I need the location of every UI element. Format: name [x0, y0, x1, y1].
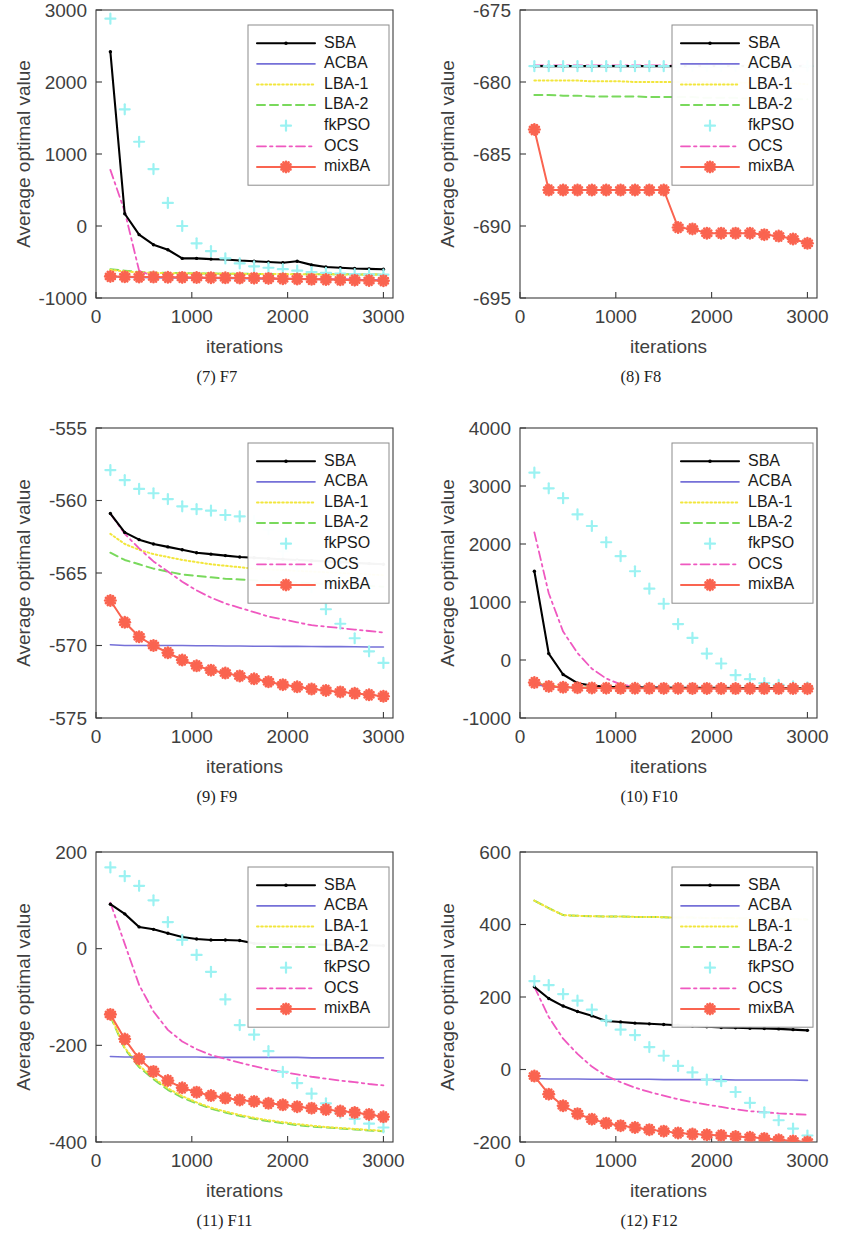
y-tick-label: 0 [500, 650, 511, 671]
y-tick-label: 3000 [469, 476, 511, 497]
legend-label: OCS [324, 555, 359, 572]
y-axis-title: Average optimal value [437, 479, 458, 667]
panel-caption: (9) F9 [197, 787, 238, 806]
x-tick-label: 2000 [690, 1150, 732, 1171]
x-tick-label: 2000 [690, 306, 732, 327]
legend-label: mixBA [324, 575, 371, 592]
x-tick-label: 2000 [266, 306, 308, 327]
legend-label: fkPSO [748, 116, 794, 133]
legend-label: fkPSO [324, 116, 370, 133]
panel-caption: (11) F11 [197, 1211, 253, 1230]
y-axis-title: Average optimal value [13, 60, 34, 248]
y-tick-label: -1000 [38, 288, 87, 309]
legend-label: fkPSO [324, 534, 370, 551]
x-tick-label: 1000 [595, 726, 637, 747]
chart-panel-f7: -100001000200030000100020003000iteration… [0, 0, 424, 410]
y-tick-label: -675 [473, 0, 511, 21]
legend-swatch-marker [284, 460, 288, 464]
y-tick-label: 2000 [45, 72, 87, 93]
legend-label: LBA-1 [324, 75, 369, 92]
legend-label: LBA-1 [324, 917, 369, 934]
y-tick-label: -200 [49, 1035, 87, 1056]
panel-caption: (12) F12 [621, 1211, 678, 1230]
x-tick-label: 1000 [595, 1150, 637, 1171]
legend-label: LBA-1 [748, 917, 793, 934]
legend-label: mixBA [748, 575, 795, 592]
figure-grid: -100001000200030000100020003000iteration… [0, 0, 848, 1246]
y-tick-label: 3000 [45, 0, 87, 21]
legend-swatch-marker [284, 42, 288, 46]
legend-label: ACBA [748, 896, 792, 913]
x-axis-title: iterations [206, 756, 283, 777]
x-tick-label: 3000 [362, 726, 404, 747]
legend-label: mixBA [324, 999, 371, 1016]
chart-panel-f9: -575-570-565-560-5550100020003000iterati… [0, 410, 424, 830]
y-tick-label: 1000 [45, 144, 87, 165]
y-tick-label: -555 [49, 418, 87, 439]
y-tick-label: 0 [500, 1059, 511, 1080]
legend-label: ACBA [324, 472, 368, 489]
x-axis-title: iterations [630, 336, 707, 357]
x-tick-label: 3000 [786, 1150, 828, 1171]
y-tick-label: -575 [49, 708, 87, 729]
x-tick-label: 1000 [595, 306, 637, 327]
y-tick-label: -400 [49, 1132, 87, 1153]
legend-label: fkPSO [748, 534, 794, 551]
chart-panel-f8: -695-690-685-680-6750100020003000iterati… [424, 0, 848, 410]
y-axis-title: Average optimal value [13, 479, 34, 667]
legend-label: fkPSO [748, 958, 794, 975]
x-tick-label: 3000 [362, 306, 404, 327]
y-tick-label: 2000 [469, 534, 511, 555]
legend-label: SBA [324, 34, 356, 51]
legend-label: LBA-2 [324, 95, 369, 112]
x-axis-title: iterations [630, 1180, 707, 1201]
legend-swatch-marker [708, 42, 712, 46]
legend-swatch-marker [708, 884, 712, 888]
y-tick-label: 200 [55, 842, 87, 863]
y-tick-label: -690 [473, 216, 511, 237]
y-axis-title: Average optimal value [437, 60, 458, 248]
x-tick-label: 1000 [171, 726, 213, 747]
y-tick-label: 4000 [469, 418, 511, 439]
y-axis-title: Average optimal value [437, 903, 458, 1091]
x-tick-label: 0 [91, 306, 102, 327]
x-tick-label: 2000 [690, 726, 732, 747]
legend-label: LBA-1 [324, 493, 369, 510]
x-tick-label: 0 [91, 726, 102, 747]
x-axis-title: iterations [206, 1180, 283, 1201]
x-tick-label: 0 [515, 1150, 526, 1171]
y-tick-label: -695 [473, 288, 511, 309]
y-tick-label: -1000 [462, 708, 511, 729]
legend-label: LBA-2 [748, 513, 793, 530]
legend-label: LBA-2 [324, 513, 369, 530]
legend-label: LBA-2 [324, 937, 369, 954]
y-tick-label: -565 [49, 563, 87, 584]
legend-label: mixBA [324, 157, 371, 174]
x-tick-label: 3000 [786, 726, 828, 747]
y-tick-label: -570 [49, 635, 87, 656]
x-tick-label: 0 [515, 726, 526, 747]
legend-label: SBA [748, 34, 780, 51]
x-tick-label: 2000 [266, 726, 308, 747]
panel-caption: (8) F8 [621, 367, 662, 386]
legend-label: LBA-2 [748, 937, 793, 954]
legend-label: OCS [324, 137, 359, 154]
y-tick-label: 200 [479, 987, 511, 1008]
chart-legend: SBAACBALBA-1LBA-2fkPSOOCSmixBA [672, 443, 813, 603]
legend-label: LBA-2 [748, 95, 793, 112]
legend-label: ACBA [324, 896, 368, 913]
chart-legend: SBAACBALBA-1LBA-2fkPSOOCSmixBA [672, 25, 813, 185]
panel-caption: (7) F7 [197, 367, 238, 386]
x-tick-label: 0 [91, 1150, 102, 1171]
legend-swatch-marker [284, 884, 288, 888]
y-tick-label: 0 [76, 938, 87, 959]
x-tick-label: 0 [515, 306, 526, 327]
y-tick-label: 1000 [469, 592, 511, 613]
legend-label: OCS [748, 137, 783, 154]
panel-caption: (10) F10 [621, 787, 678, 806]
legend-label: SBA [748, 876, 780, 893]
legend-label: LBA-1 [748, 75, 793, 92]
chart-legend: SBAACBALBA-1LBA-2fkPSOOCSmixBA [248, 443, 389, 603]
legend-label: fkPSO [324, 958, 370, 975]
legend-swatch-marker [708, 460, 712, 464]
